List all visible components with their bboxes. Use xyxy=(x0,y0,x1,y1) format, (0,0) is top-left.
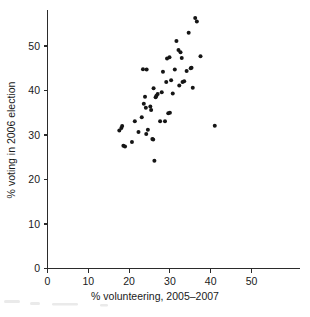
x-tick-label-50: 50 xyxy=(246,275,258,287)
x-tick-label-20: 20 xyxy=(123,275,135,287)
x-tick-label-10: 10 xyxy=(82,275,94,287)
data-point xyxy=(156,92,160,96)
data-point xyxy=(163,119,167,123)
data-point xyxy=(179,50,183,54)
x-axis-ticks xyxy=(48,269,252,273)
y-tick-label-10: 10 xyxy=(28,218,40,230)
data-point xyxy=(151,137,155,141)
data-point xyxy=(177,84,181,88)
data-point xyxy=(191,86,195,90)
data-point xyxy=(144,132,148,136)
y-axis-tick-labels: 0 10 20 30 40 50 xyxy=(28,40,40,275)
plot-canvas: 0 10 20 30 40 50 % voting in 2006 electi… xyxy=(0,0,310,317)
y-axis-ticks xyxy=(44,46,48,269)
data-point xyxy=(171,92,175,96)
data-point xyxy=(187,31,191,35)
data-point xyxy=(180,56,184,60)
scatter-plot-figure: 0 10 20 30 40 50 % voting in 2006 electi… xyxy=(0,0,310,317)
data-point xyxy=(199,54,203,58)
data-point xyxy=(193,16,197,20)
data-point xyxy=(133,119,137,123)
data-point xyxy=(213,124,217,128)
y-axis-title: % voting in 2006 election xyxy=(5,81,17,198)
y-tick-label-40: 40 xyxy=(28,84,40,96)
data-point xyxy=(145,68,149,72)
data-point xyxy=(174,39,178,43)
data-point xyxy=(182,79,186,83)
data-point xyxy=(148,105,152,109)
data-point xyxy=(169,78,173,82)
data-point xyxy=(190,66,194,70)
x-tick-label-40: 40 xyxy=(205,275,217,287)
y-tick-label-50: 50 xyxy=(28,40,40,52)
data-point xyxy=(164,80,168,84)
data-point xyxy=(168,111,172,115)
data-point xyxy=(130,140,134,144)
data-point xyxy=(152,86,156,90)
y-tick-label-0: 0 xyxy=(34,262,40,274)
y-tick-label-20: 20 xyxy=(28,173,40,185)
data-point xyxy=(142,102,146,106)
data-point xyxy=(146,128,150,132)
data-point xyxy=(143,95,147,99)
data-point xyxy=(152,159,156,163)
data-point xyxy=(161,70,165,74)
y-tick-label-30: 30 xyxy=(28,129,40,141)
data-point xyxy=(141,67,145,71)
data-point xyxy=(144,106,148,110)
data-point xyxy=(158,119,162,123)
data-point xyxy=(140,115,144,119)
x-tick-label-0: 0 xyxy=(45,275,51,287)
x-axis-title: % volunteering, 2005–2007 xyxy=(91,290,219,302)
data-point xyxy=(149,108,153,112)
x-axis-tick-labels: 0 10 20 30 40 50 xyxy=(45,275,258,287)
y-axis: 0 10 20 30 40 50 % voting in 2006 electi… xyxy=(5,10,48,274)
data-point xyxy=(136,130,140,134)
data-point xyxy=(185,69,189,73)
data-point xyxy=(123,145,127,149)
data-points-layer xyxy=(117,16,216,163)
data-point xyxy=(160,90,164,94)
x-axis: 0 10 20 30 40 50 % volunteering, 2005–20… xyxy=(45,269,300,303)
x-tick-label-30: 30 xyxy=(164,275,176,287)
data-point xyxy=(195,20,199,24)
data-point xyxy=(167,55,171,59)
data-point xyxy=(173,68,177,72)
data-point xyxy=(120,124,124,128)
